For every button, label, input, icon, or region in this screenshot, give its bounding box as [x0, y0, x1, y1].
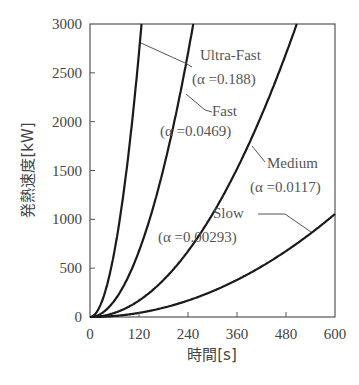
x-tick-label: 360: [226, 326, 249, 342]
x-tick-label: 0: [86, 326, 94, 342]
y-tick-label: 0: [75, 309, 83, 325]
alpha-label: (α =0.188): [192, 71, 256, 88]
alpha-label: (α =0.0117): [250, 179, 321, 196]
leader-line: [186, 94, 212, 112]
leader-line: [252, 146, 265, 162]
series-label: Fast: [212, 103, 238, 119]
x-tick-label: 240: [177, 326, 200, 342]
series-label: Ultra-Fast: [200, 47, 262, 63]
y-tick-label: 500: [60, 260, 83, 276]
y-tick-label: 2000: [52, 114, 82, 130]
y-tick-label: 1500: [52, 163, 82, 179]
y-tick-label: 3000: [52, 16, 82, 32]
series-label: Slow: [213, 205, 244, 221]
alpha-label: (α =0.00293): [158, 229, 237, 246]
annotations: Ultra-Fast(α =0.188)Fast(α =0.0469)Mediu…: [141, 43, 321, 246]
x-tick-label: 600: [324, 326, 347, 342]
curve-medium: [90, 24, 297, 317]
curve-ultra-fast: [90, 24, 142, 317]
x-tick-label: 120: [128, 326, 151, 342]
series-label: Medium: [267, 155, 318, 171]
leader-line: [258, 214, 311, 232]
leader-line: [141, 43, 192, 67]
y-axis-label: 発熱速度[kW]: [19, 122, 37, 217]
y-tick-label: 2500: [52, 65, 82, 81]
x-tick-label: 480: [275, 326, 298, 342]
x-axis-label: 時間[s]: [187, 346, 237, 364]
curve-fast: [90, 24, 193, 317]
heat-release-chart: 0120240360480600050010001500200025003000…: [0, 0, 359, 385]
y-tick-label: 1000: [52, 211, 82, 227]
alpha-label: (α =0.0469): [160, 123, 231, 140]
